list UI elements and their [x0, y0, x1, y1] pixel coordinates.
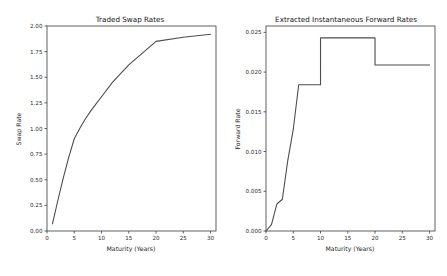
y-tick-label: 1.50 [30, 74, 43, 80]
y-tick-label: 0.000 [245, 228, 261, 234]
y-tick-label: 0.005 [245, 188, 261, 194]
y-axis-title-right: Forward Rate [234, 108, 241, 149]
x-tick-label: 5 [291, 235, 295, 241]
y-tick-label: 0.00 [30, 228, 43, 234]
y-axis-ticks-right: 0.0000.0050.0100.0150.0200.025 [245, 29, 266, 234]
x-tick-label: 10 [98, 235, 106, 241]
y-axis-ticks-left: 0.000.250.500.751.001.251.501.752.00 [30, 23, 47, 234]
x-tick-label: 25 [399, 235, 407, 241]
figure-canvas: Traded Swap Rates 0.000.250.500.751.001.… [0, 0, 447, 276]
y-tick-label: 1.00 [30, 126, 43, 132]
x-tick-label: 0 [264, 235, 268, 241]
x-tick-label: 10 [317, 235, 325, 241]
forward-rates-svg: Extracted Instantaneous Forward Rates 0.… [224, 0, 447, 276]
y-tick-label: 0.75 [30, 151, 43, 157]
x-axis-ticks-left: 051015202530 [45, 231, 214, 241]
x-tick-label: 0 [45, 235, 49, 241]
y-tick-label: 1.25 [30, 100, 43, 106]
panel-title-swap-rates: Traded Swap Rates [95, 15, 165, 24]
chart-panel-swap-rates: Traded Swap Rates 0.000.250.500.751.001.… [0, 0, 224, 276]
swap-rates-svg: Traded Swap Rates 0.000.250.500.751.001.… [0, 0, 224, 276]
x-tick-label: 5 [72, 235, 76, 241]
y-tick-label: 0.010 [245, 149, 261, 155]
x-tick-label: 30 [426, 235, 434, 241]
y-tick-label: 0.025 [245, 29, 261, 35]
x-tick-label: 20 [152, 235, 160, 241]
x-tick-label: 15 [344, 235, 352, 241]
y-axis-title-left: Swap Rate [15, 112, 23, 145]
x-axis-ticks-right: 051015202530 [264, 231, 433, 241]
x-tick-label: 25 [180, 235, 188, 241]
y-tick-label: 0.015 [245, 109, 261, 115]
x-tick-label: 15 [125, 235, 133, 241]
x-axis-title-right: Maturity (Years) [326, 245, 375, 253]
x-axis-title-left: Maturity (Years) [107, 245, 156, 253]
y-tick-label: 2.00 [30, 23, 43, 29]
plot-frame-left [47, 26, 216, 231]
y-tick-label: 1.75 [30, 49, 43, 55]
y-tick-label: 0.25 [30, 202, 43, 208]
plot-frame-right [266, 26, 435, 231]
chart-panel-forward-rates: Extracted Instantaneous Forward Rates 0.… [224, 0, 447, 276]
x-tick-label: 20 [371, 235, 379, 241]
x-tick-label: 30 [207, 235, 215, 241]
y-tick-label: 0.50 [30, 177, 43, 183]
y-tick-label: 0.020 [245, 69, 261, 75]
panel-title-forward-rates: Extracted Instantaneous Forward Rates [275, 15, 417, 24]
